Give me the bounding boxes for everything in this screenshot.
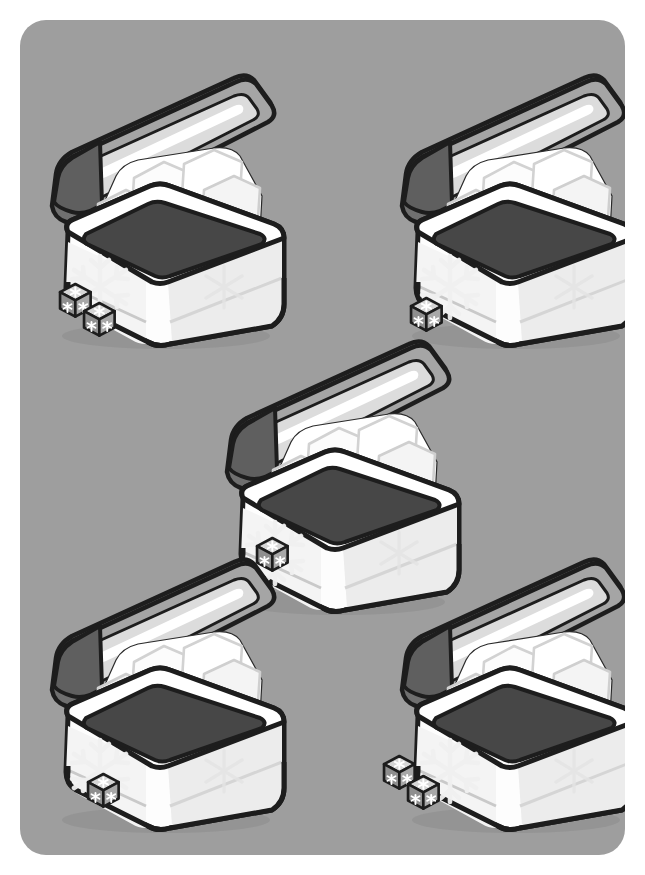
cooler-top-left[interactable] bbox=[52, 75, 284, 349]
dice-group-top-right[interactable] bbox=[411, 298, 442, 331]
die[interactable] bbox=[88, 774, 119, 807]
die[interactable] bbox=[408, 776, 439, 809]
die[interactable] bbox=[411, 298, 442, 331]
cooler-bottom-left[interactable] bbox=[52, 559, 284, 833]
dice-group-bottom-left[interactable] bbox=[88, 774, 119, 807]
dice-group-center[interactable] bbox=[257, 538, 288, 571]
cooler-top-right[interactable] bbox=[402, 75, 634, 349]
die[interactable] bbox=[257, 538, 288, 571]
die[interactable] bbox=[84, 303, 115, 336]
cooler-illustration-layer bbox=[0, 0, 645, 875]
illustration-card bbox=[0, 0, 645, 875]
